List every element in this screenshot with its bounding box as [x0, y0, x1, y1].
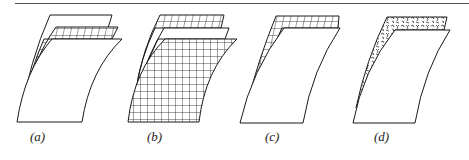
panel-d [353, 17, 450, 123]
panel-a [17, 15, 122, 122]
panel-label-c: (c) [265, 129, 279, 145]
panel-c [240, 16, 340, 123]
panel-b [128, 15, 237, 122]
panel-label-b: (b) [147, 129, 162, 145]
panel-label-a: (a) [30, 129, 45, 145]
panel-label-d: (d) [374, 129, 389, 145]
diagram-canvas [0, 0, 469, 160]
